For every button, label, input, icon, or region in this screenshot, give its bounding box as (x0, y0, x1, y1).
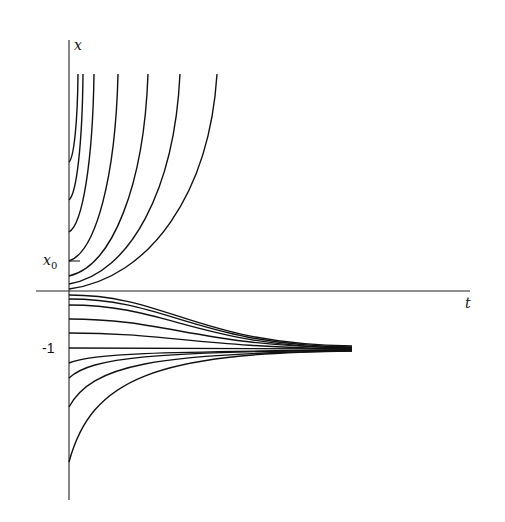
phase-line-figure: x t x0 -1 (0, 0, 505, 522)
solution-curve-lower-2 (69, 299, 352, 347)
y-axis-label: x (74, 37, 82, 53)
solution-curve-upper-7 (69, 74, 217, 289)
solution-curve-lower-9 (69, 351, 352, 462)
solution-curve-upper-2 (69, 74, 83, 200)
solution-curve-upper-1 (69, 74, 78, 162)
solution-curves (69, 74, 352, 462)
solution-curve-upper-6 (69, 74, 180, 284)
x-axis-label: t (465, 295, 471, 311)
x0-label: x0 (43, 252, 57, 271)
minus-one-label: -1 (42, 340, 55, 356)
